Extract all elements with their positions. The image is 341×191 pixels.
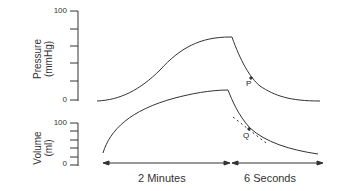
volume-tick-0: 0 — [45, 159, 67, 168]
pressure-tick-100: 100 — [45, 6, 67, 15]
pressure-tick-0: 0 — [45, 95, 67, 104]
volume-label-text: Volume — [32, 127, 43, 169]
volume-tick-100: 100 — [45, 118, 67, 127]
duration-2-minutes: 2 Minutes — [138, 172, 186, 184]
pressure-label-text: Pressure — [32, 34, 43, 84]
point-q-label: Q — [243, 131, 249, 140]
pressure-axis-label: Pressure (mmHg) — [32, 34, 54, 84]
pressure-unit-text: (mmHg) — [43, 34, 54, 84]
pressure-volume-diagram: Pressure (mmHg) 100 0 P Volume (ml) 100 … — [0, 0, 341, 191]
point-p-label: P — [246, 79, 251, 88]
tangent-line — [233, 117, 266, 143]
duration-6-seconds: 6 Seconds — [244, 172, 296, 184]
volume-curve — [103, 90, 318, 154]
